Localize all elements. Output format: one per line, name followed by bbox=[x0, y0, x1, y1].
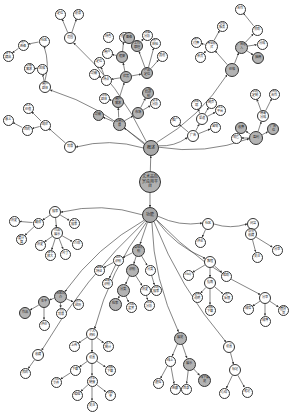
mind-map-node-g_d12[interactable]: 收藏夹 bbox=[105, 390, 116, 401]
mind-map-node-g_e4[interactable]: 点赞收藏 bbox=[245, 228, 257, 240]
mind-map-node-n_a11[interactable]: 定位 bbox=[94, 57, 105, 68]
mind-map-node-g_d3[interactable]: 个人资料 bbox=[86, 328, 98, 340]
mind-map-node-g_b1[interactable]: 高级识别 bbox=[132, 244, 145, 257]
mind-map-node-g_a6[interactable]: 作品展示 bbox=[51, 227, 63, 239]
mind-map-node-g_d7[interactable]: 下载 bbox=[70, 365, 81, 376]
mind-map-node-g_f1[interactable]: 教程 bbox=[204, 256, 216, 268]
mind-map-node-n_c3[interactable]: 愿景 bbox=[73, 9, 84, 20]
mind-map-node-g_h7[interactable]: 线下展览 bbox=[198, 374, 211, 387]
mind-map-node-n_c1[interactable]: 范围 bbox=[64, 32, 76, 44]
mind-map-node-n_e3[interactable]: 移动端 bbox=[191, 99, 202, 110]
mind-map-node-g_h1[interactable]: 展览 bbox=[174, 332, 187, 345]
mind-map-node-g_b6[interactable]: 分类 bbox=[145, 265, 156, 276]
mind-map-node-n_d5[interactable]: 会员 bbox=[195, 52, 206, 63]
mind-map-node-g_e5[interactable]: 分享 bbox=[272, 245, 283, 256]
mind-map-node-g_a7[interactable]: 历史 bbox=[35, 240, 46, 251]
mind-map-node-n_c4[interactable]: 用户群体 bbox=[39, 81, 51, 93]
mind-map-node-g_b2[interactable]: AR识别 bbox=[113, 255, 124, 266]
mind-map-node-n_e7[interactable]: 营销 bbox=[210, 122, 221, 133]
mind-map-node-g_a8[interactable]: 细节放大 bbox=[45, 250, 56, 261]
mind-map-node-g_b8[interactable]: 历史 bbox=[140, 285, 151, 296]
mind-map-node-g_b9[interactable]: 检索 bbox=[109, 298, 122, 311]
mind-map-node-g_d10[interactable]: 视频下载 bbox=[105, 365, 116, 376]
mind-map-node-n_d1[interactable]: 价格 bbox=[225, 63, 239, 77]
mind-map-node-n_c9[interactable]: 风格 bbox=[37, 64, 48, 75]
mind-map-node-g_f3[interactable]: 帮助 bbox=[221, 271, 232, 282]
mind-map-node-g_c1[interactable]: 画家简介 bbox=[54, 290, 67, 303]
mind-map-node-g_f5[interactable]: 使用说明 bbox=[192, 292, 203, 303]
mind-map-node-g_g4[interactable]: 微博 bbox=[260, 316, 271, 327]
mind-map-node-n_f6[interactable]: 主题定制 bbox=[250, 89, 261, 100]
mind-map-node-g_a3[interactable]: 历史 bbox=[9, 216, 20, 227]
mind-map-node-g_c5[interactable]: 创作经历 bbox=[73, 299, 84, 310]
mind-map-node-g_a1[interactable]: 搜索 bbox=[49, 206, 61, 218]
mind-map-node-g_i4[interactable]: 笔记 bbox=[242, 387, 253, 398]
mind-map-node-n_d2[interactable]: 商业模式 bbox=[205, 40, 218, 53]
mind-map-node-g_c2[interactable]: 生平 bbox=[38, 296, 50, 308]
mind-map-node-n_d6[interactable]: 广告收入 bbox=[235, 41, 248, 54]
mind-map-node-g_b12[interactable]: 主题搜索 bbox=[151, 285, 162, 296]
mind-map-node-g_e1[interactable]: 社区 bbox=[202, 218, 214, 230]
mind-map-node-g_a2[interactable]: 翻译 bbox=[33, 218, 44, 229]
mind-map-node-n_f7[interactable]: 授权合作 bbox=[269, 89, 280, 100]
mind-map-node-n_c5[interactable]: 功能需求 bbox=[24, 63, 35, 74]
mind-map-node-n_b2[interactable]: 目的 bbox=[22, 125, 33, 136]
mind-map-node-n_a18[interactable]: 图像 bbox=[123, 32, 135, 44]
mind-map-node-n_b3[interactable]: 意义 bbox=[3, 115, 14, 126]
mind-map-node-n_b4[interactable]: 艺术价值 bbox=[23, 103, 34, 114]
mind-map-node-g_e2[interactable]: 评论 bbox=[195, 237, 206, 248]
mind-map-node-n_c7[interactable]: 用户画像 bbox=[18, 40, 29, 51]
mind-map-node-g_h5[interactable]: 展示 bbox=[183, 358, 196, 371]
mind-map-node-g_f6[interactable]: 用户反馈 bbox=[222, 292, 233, 303]
mind-map-node-n_a16[interactable]: 特色 bbox=[103, 32, 114, 43]
mind-map-node-g_i1[interactable]: 设置 bbox=[223, 341, 235, 353]
mind-map-node-n_a1[interactable]: 应用背景 bbox=[113, 118, 126, 131]
mind-map-node-n_d8[interactable]: 合作 bbox=[235, 4, 246, 15]
mind-map-node-g_h3[interactable]: 虚拟 bbox=[153, 378, 164, 389]
mind-map-node-n_c2[interactable]: 定位 bbox=[55, 9, 66, 20]
mind-map-node-n_d10[interactable]: 抽佣 bbox=[252, 52, 264, 64]
mind-map-node-n_e1[interactable]: 广告 bbox=[187, 130, 199, 142]
mind-map-node-n_a5[interactable]: 市场 bbox=[132, 107, 144, 119]
mind-map-node-g_c4[interactable]: 时代背景 bbox=[56, 308, 67, 319]
mind-map-node-g_g3[interactable]: 朋友圈分享 bbox=[278, 305, 289, 316]
mind-map-node-g_a4[interactable]: 相似度计算 bbox=[16, 234, 27, 245]
mind-map-node-g_b4[interactable]: 智能识别 bbox=[102, 278, 113, 289]
mind-map-node-g_d2[interactable]: 我的 bbox=[20, 368, 31, 379]
mind-map-node-gaishu[interactable]: 概述 bbox=[143, 140, 159, 156]
mind-map-node-n_f5[interactable]: 广告位 bbox=[267, 123, 279, 135]
mind-map-node-n_f3[interactable]: 销售 bbox=[231, 133, 242, 144]
mind-map-node-n_a10[interactable]: 特点 bbox=[101, 75, 112, 86]
mind-map-node-n_a3[interactable]: 用户需求 bbox=[112, 96, 124, 108]
mind-map-node-g_b7[interactable]: 分类 bbox=[117, 284, 130, 297]
mind-map-node-g_h2[interactable]: 线上 bbox=[165, 356, 176, 367]
mind-map-node-g_b3[interactable]: 图像特征 bbox=[94, 265, 105, 276]
mind-map-node-n_a21[interactable]: 其他 bbox=[157, 51, 168, 62]
mind-map-node-g_d13[interactable]: 关注 bbox=[87, 401, 98, 412]
mind-map-node-g_d4[interactable]: 上传 bbox=[69, 341, 80, 352]
mind-map-node-g_f7[interactable]: 视频下载 bbox=[205, 305, 216, 316]
mind-map-node-n_a15[interactable]: 用户 bbox=[102, 48, 113, 59]
mind-map-node-g_i2[interactable]: 标记 bbox=[229, 364, 241, 376]
mind-map-node-g_b11[interactable]: 风格分析 bbox=[144, 300, 155, 311]
mind-map-node-g_h4[interactable]: 画廊 bbox=[170, 384, 181, 395]
mind-map-node-n_a8[interactable]: 产品定位 bbox=[141, 67, 153, 79]
mind-map-node-g_d11[interactable]: 编辑 bbox=[72, 390, 83, 401]
mind-map-node-n_a2[interactable]: 功能 bbox=[93, 110, 104, 121]
mind-map-node-g_d6[interactable]: 设置 bbox=[86, 352, 98, 364]
mind-map-node-g_c6[interactable]: 评价 bbox=[39, 320, 50, 331]
mind-map-node-g_a5[interactable]: 语音搜索 bbox=[69, 218, 80, 229]
mind-map-node-g_d1[interactable]: 收藏 bbox=[32, 349, 44, 361]
mind-map-node-n_b1[interactable]: 背景 bbox=[64, 141, 76, 153]
mind-map-node-g_c3[interactable]: 作品 bbox=[19, 307, 31, 319]
mind-map-node-g_g2[interactable]: 微信 bbox=[243, 304, 254, 315]
mind-map-node-n_a13[interactable]: 框架 bbox=[116, 51, 128, 63]
mind-map-node-n_e5[interactable]: 社交平台 bbox=[215, 105, 226, 116]
mind-map-node-n_e2[interactable]: 渠道 bbox=[196, 113, 208, 125]
mind-map-node-g_d5[interactable]: 收入统计 bbox=[103, 341, 114, 352]
mind-map-node-center[interactable]: 艺术品欣赏应用平台 bbox=[139, 171, 161, 193]
mind-map-node-g_d8[interactable]: 打印文件 bbox=[51, 377, 62, 388]
mind-map-node-g_b10[interactable]: 作品鉴赏 bbox=[126, 302, 137, 313]
mind-map-node-g_d9[interactable]: 分享链接 bbox=[87, 376, 98, 387]
mind-map-node-n_d3[interactable]: 用户付费 bbox=[191, 37, 202, 48]
